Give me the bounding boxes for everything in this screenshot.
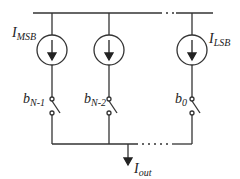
arrow-down-icon: [188, 53, 196, 60]
label-b-n-1: bN-1: [23, 90, 45, 106]
branch-msb: [37, 13, 67, 144]
arrow-down-icon: [105, 53, 113, 60]
branch-lsb: [177, 13, 207, 144]
output-arrow-icon: [124, 158, 132, 165]
label-i-lsb: ILSB: [209, 30, 230, 46]
label-b-0: b0: [175, 90, 187, 106]
label-i-out: Iout: [134, 160, 151, 176]
switch-contact-bottom: [50, 111, 54, 115]
arrow-down-icon: [48, 53, 56, 60]
switch-contact-top: [50, 97, 54, 101]
dac-diagram: IMSB ILSB bN-1 bN-2 b0 Iout: [0, 0, 240, 179]
branch-n2: [94, 13, 124, 144]
label-b-n-2: bN-2: [84, 90, 106, 106]
label-i-msb: IMSB: [12, 24, 36, 40]
